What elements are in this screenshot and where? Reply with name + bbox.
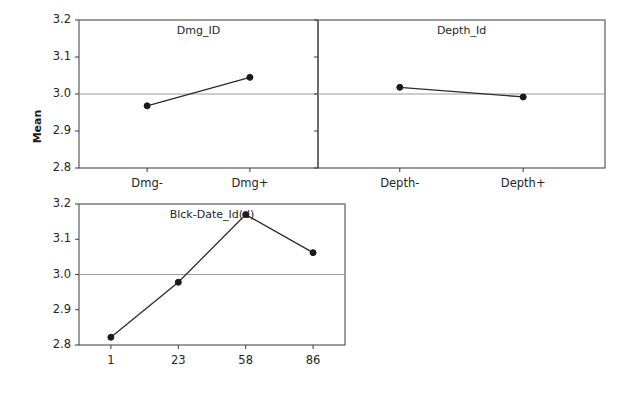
data-point [108,334,114,340]
x-tick-label: 1 [107,353,114,367]
data-point [144,103,150,109]
data-point [520,94,526,100]
series-line-dmg [147,77,250,105]
panel-title-depth: Depth_Id [437,24,486,37]
data-point [175,279,181,285]
x-tick-label: Dmg+ [231,176,268,190]
data-point [397,84,403,90]
y-tick-label: 3.2 [37,196,71,210]
x-tick-label: Dmg- [131,176,163,190]
y-tick-label: 2.9 [37,302,71,316]
y-tick-label: 2.9 [37,123,71,137]
y-tick-label: 3.0 [37,267,71,281]
y-tick-label: 2.8 [37,337,71,351]
plot-canvas [0,0,629,393]
data-point [247,74,253,80]
x-tick-label: 86 [306,353,321,367]
y-tick-label: 2.8 [37,160,71,174]
main-effects-plot: Mean 2.82.93.03.13.22.82.93.03.13.2 Dmg-… [0,0,629,393]
y-tick-label: 3.2 [37,12,71,26]
x-tick-label: Depth+ [501,176,546,190]
panel-title-dmg: Dmg_ID [177,24,220,37]
x-tick-label: 23 [171,353,186,367]
x-tick-label: 58 [238,353,253,367]
panel-title-blck_date: Blck-Date_Id(d) [170,208,255,221]
x-tick-label: Depth- [380,176,419,190]
y-tick-label: 3.1 [37,49,71,63]
y-tick-label: 3.1 [37,231,71,245]
series-line-blck_date [111,215,313,338]
data-point [310,250,316,256]
y-tick-label: 3.0 [37,86,71,100]
series-line-depth [400,87,523,97]
